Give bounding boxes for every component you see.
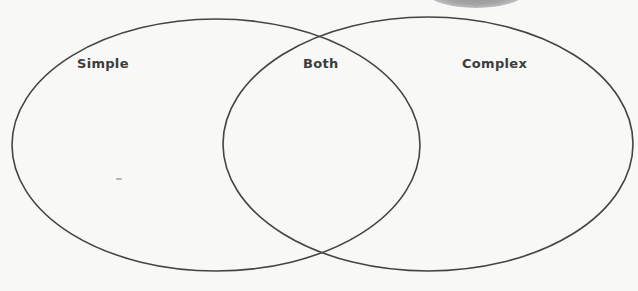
venn-diagram-canvas: Simple Both Complex xyxy=(0,0,638,291)
venn-diagram xyxy=(0,0,638,291)
simple-ellipse xyxy=(12,19,420,271)
both-label: Both xyxy=(303,56,339,71)
complex-ellipse xyxy=(223,17,633,271)
simple-label: Simple xyxy=(77,56,129,71)
complex-label: Complex xyxy=(462,56,527,71)
paper-speck-decoration xyxy=(116,178,122,180)
